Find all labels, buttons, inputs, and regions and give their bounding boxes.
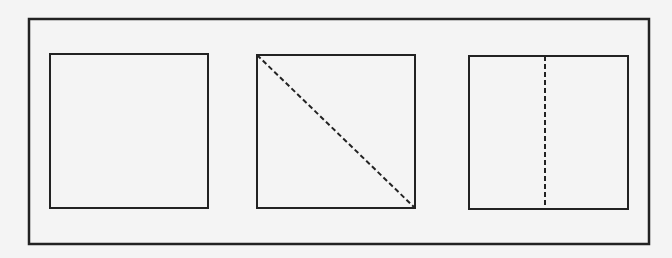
square-diagonal	[257, 55, 415, 208]
diagram-canvas	[0, 0, 672, 258]
square-vertical	[469, 56, 628, 209]
dashed-diagonal-line	[257, 55, 415, 208]
outer-frame	[29, 19, 649, 244]
square-plain	[50, 54, 208, 208]
